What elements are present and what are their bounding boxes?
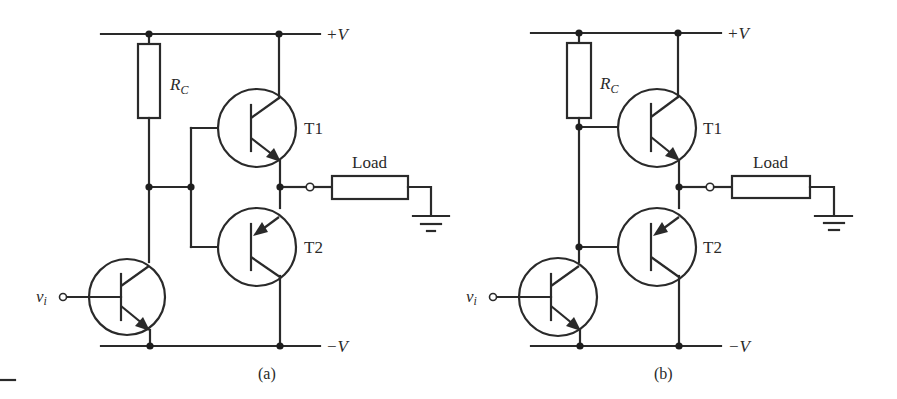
junction-dot bbox=[276, 342, 283, 349]
junction-dot bbox=[675, 183, 682, 190]
t1-label: T1 bbox=[703, 119, 722, 138]
load-label: Load bbox=[352, 153, 387, 172]
transistor-t1 bbox=[218, 34, 296, 208]
panel-caption: (a) bbox=[258, 365, 276, 383]
junction-dot bbox=[276, 183, 283, 190]
junction-dot bbox=[575, 123, 582, 130]
load-label: Load bbox=[753, 153, 788, 172]
junction-dot bbox=[146, 342, 153, 349]
driver-transistor bbox=[67, 259, 165, 346]
transistor-t1 bbox=[618, 33, 696, 208]
junction-dot bbox=[575, 29, 582, 36]
positive-supply-label: +V bbox=[326, 25, 350, 44]
panel-b: +V −V RC T1 T2 bbox=[466, 24, 852, 383]
rc-label: RC bbox=[599, 74, 619, 96]
junction-dot bbox=[145, 30, 152, 37]
junction-dot bbox=[576, 342, 583, 349]
t2-label: T2 bbox=[304, 238, 323, 257]
panel-a: +V −V RC T1 T2 bbox=[36, 25, 449, 383]
input-label: vi bbox=[466, 287, 477, 308]
junction-dot bbox=[675, 342, 682, 349]
transistor-t2 bbox=[618, 208, 696, 346]
ground-icon bbox=[815, 216, 852, 230]
negative-supply-label: −V bbox=[728, 337, 752, 356]
t1-label: T1 bbox=[304, 119, 323, 138]
transistor-t2 bbox=[218, 208, 296, 346]
junction-dot bbox=[145, 183, 152, 190]
input-terminal bbox=[60, 294, 67, 301]
negative-supply-label: −V bbox=[326, 337, 350, 356]
t2-label: T2 bbox=[703, 238, 722, 257]
driver-transistor bbox=[497, 258, 597, 346]
rc-label: RC bbox=[169, 75, 189, 97]
output-terminal bbox=[306, 183, 314, 191]
junction-dot bbox=[575, 243, 582, 250]
load-resistor bbox=[332, 176, 408, 199]
circuit-figure: +V −V RC T1 T2 bbox=[0, 0, 897, 399]
ground-icon bbox=[413, 216, 449, 231]
junction-dot bbox=[674, 29, 681, 36]
input-terminal bbox=[490, 294, 497, 301]
rc-resistor bbox=[567, 43, 591, 118]
output-terminal bbox=[706, 183, 714, 191]
rc-resistor bbox=[138, 44, 160, 118]
junction-dot bbox=[275, 30, 282, 37]
load-resistor bbox=[732, 176, 810, 198]
positive-supply-label: +V bbox=[727, 24, 751, 43]
panel-caption: (b) bbox=[654, 365, 673, 383]
junction-dot bbox=[187, 183, 194, 190]
input-label: vi bbox=[36, 287, 47, 308]
